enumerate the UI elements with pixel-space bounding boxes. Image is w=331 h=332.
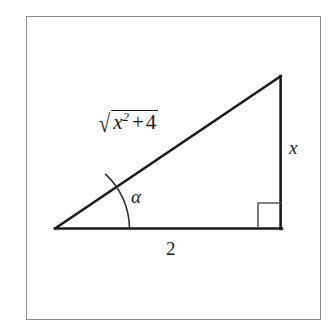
vertical-leg-label: x [289, 138, 297, 157]
radicand-group: x2+4 [111, 110, 158, 133]
right-angle-marker [258, 203, 281, 228]
triangle-hypotenuse-line [55, 76, 281, 229]
radical-sign-icon: √ [99, 111, 110, 136]
radicand-exponent: 2 [123, 109, 130, 124]
figure-canvas: √x2+4 x 2 α [0, 0, 331, 332]
radical-expression: √x2+4 [99, 111, 158, 136]
radicand-operator: + [132, 110, 144, 134]
triangle-drawing [0, 0, 331, 332]
angle-label: α [131, 187, 141, 206]
base-leg-label: 2 [166, 239, 176, 258]
hypotenuse-label: √x2+4 [99, 111, 158, 136]
radicand-term: 4 [146, 110, 157, 134]
radicand-base: x [113, 110, 122, 134]
